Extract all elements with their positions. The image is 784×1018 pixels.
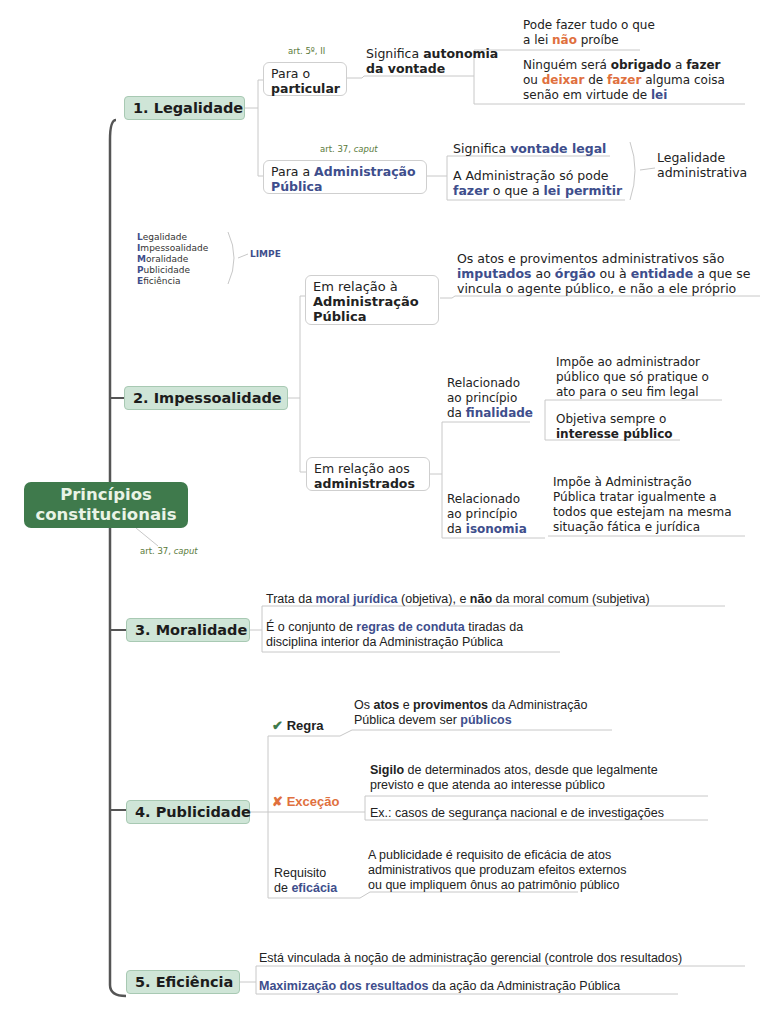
leaf-maximizacao[interactable]: Maximização dos resultados da ação da Ad… <box>259 979 620 994</box>
t: da <box>447 522 466 536</box>
node-em-relacao-a-administracao[interactable]: Em relação à Administração Pública <box>305 275 439 325</box>
t: Em relação aos <box>314 461 422 476</box>
leaf-pode-fazer-tudo[interactable]: Pode fazer tudo o que a lei não proíbe <box>523 18 655 48</box>
limpe-label[interactable]: LIMPE <box>250 249 281 259</box>
t: da <box>447 406 466 420</box>
t: A Administração só pode <box>453 168 609 183</box>
t: a lei <box>523 33 552 47</box>
t: o que a <box>489 183 544 198</box>
label: Para o <box>271 66 339 81</box>
t: senão em virtude de <box>523 88 651 102</box>
node-regra[interactable]: ✔ Regra <box>272 718 323 733</box>
summary-legalidade-administrativa[interactable]: Legalidade administrativa <box>657 150 747 180</box>
t: Administração <box>314 164 416 179</box>
node-requisito-eficacia[interactable]: Requisito de eficácia <box>274 866 337 896</box>
t: M <box>137 254 146 264</box>
t: Os atos e provimentos administrativos sã… <box>457 251 724 266</box>
t: Pode fazer tudo o que <box>523 18 655 32</box>
node-para-a-administracao[interactable]: Para a Administração Pública <box>263 160 427 194</box>
node-excecao[interactable]: ✘ Exceção <box>272 794 339 809</box>
t: Pública <box>271 179 419 194</box>
t: da moral comum (subjetiva) <box>492 592 650 606</box>
t: ou <box>523 73 542 87</box>
leaf-requisito-de-eficacia[interactable]: A publicidade é requisito de eficácia de… <box>368 848 626 893</box>
t: proíbe <box>577 33 619 47</box>
node-principio-finalidade[interactable]: Relacionado ao princípio da finalidade <box>447 376 533 421</box>
t: públicos <box>460 713 511 727</box>
leaf-vontade-legal[interactable]: Significa vontade legal <box>453 141 606 156</box>
leaf-atos-publicos[interactable]: Os atos e provimentos da Administração P… <box>354 698 587 728</box>
t: vontade legal <box>510 141 606 156</box>
t: art. 37, <box>320 144 354 154</box>
note-italic: caput <box>174 546 198 556</box>
t: Requisito <box>274 866 337 881</box>
t: Trata da <box>266 592 316 606</box>
leaf-exemplos[interactable]: Ex.: casos de segurança nacional e de in… <box>370 806 664 821</box>
topic-eficiencia[interactable]: 5. Eficiência <box>126 970 240 994</box>
leaf-interesse-publico[interactable]: Objetiva sempre o interesse público <box>556 412 673 442</box>
t: obrigado <box>611 58 671 72</box>
t: moral jurídica <box>316 592 398 606</box>
t: previsto e que atenda ao interesse públi… <box>370 778 605 792</box>
t: Relacionado <box>447 492 527 507</box>
note-art37: art. 37, caput <box>320 144 378 154</box>
leaf-atos-imputados[interactable]: Os atos e provimentos administrativos sã… <box>457 251 751 296</box>
t: administrativa <box>657 165 747 180</box>
t: ao <box>532 266 555 281</box>
t: não <box>552 33 577 47</box>
t: da Administração <box>488 698 587 712</box>
t: P <box>137 265 144 275</box>
t: ublicidade <box>144 265 190 275</box>
t: (objetiva), e <box>398 592 470 606</box>
leaf-moral-juridica[interactable]: Trata da moral jurídica (objetiva), e nã… <box>266 592 650 607</box>
t: Maximização dos resultados <box>259 979 429 993</box>
leaf-tratar-igualmente[interactable]: Impõe à Administração Pública tratar igu… <box>553 475 732 535</box>
t: Legalidade <box>657 150 747 165</box>
t: ou à <box>596 266 631 281</box>
t: ficiência <box>143 276 180 286</box>
t: Significa <box>453 141 510 156</box>
leaf-regras-de-conduta[interactable]: É o conjunto de regras de conduta tirada… <box>266 620 523 650</box>
leaf-sigilo[interactable]: Sigilo de determinados atos, desde que l… <box>370 763 658 793</box>
topic-moralidade[interactable]: 3. Moralidade <box>126 618 250 642</box>
leaf-ninguem-sera-obrigado[interactable]: Ninguém será obrigado a fazer ou deixar … <box>523 58 725 103</box>
t: eficácia <box>291 881 337 895</box>
leaf-so-pode-fazer[interactable]: A Administração só pode fazer o que a le… <box>453 168 622 198</box>
t: fazer <box>453 183 489 198</box>
t: entidade <box>631 266 693 281</box>
limpe-item: Impessoalidade <box>137 243 208 254</box>
t: vincula o agente público, e não a ele pr… <box>457 281 736 296</box>
t: administrados <box>314 476 422 491</box>
cross-icon: ✘ <box>272 794 283 809</box>
t: Impõe ao administrador <box>556 355 709 370</box>
t: alguma coisa <box>641 73 724 87</box>
leaf-administracao-gerencial[interactable]: Está vinculada à noção de administração … <box>259 951 682 966</box>
t: a <box>671 58 686 72</box>
leaf-impoe-ao-administrador[interactable]: Impõe ao administrador público que só pr… <box>556 355 709 400</box>
t: Impõe à Administração <box>553 475 732 490</box>
t: Objetiva sempre o <box>556 412 673 427</box>
check-icon: ✔ <box>272 718 283 733</box>
t: todos que estejam na mesma <box>553 505 732 520</box>
node-autonomia-da-vontade[interactable]: Significa autonomia da vontade <box>366 46 498 76</box>
t: de <box>274 881 291 895</box>
topic-impessoalidade[interactable]: 2. Impessoalidade <box>124 386 288 410</box>
central-topic[interactable]: Princípios constitucionais <box>24 482 188 528</box>
t: da vontade <box>366 61 445 76</box>
t: caput <box>354 144 378 154</box>
t: deixar <box>542 73 585 87</box>
t: lei <box>651 88 667 102</box>
node-para-o-particular[interactable]: Para o particular <box>263 62 347 96</box>
note-art5: art. 5º, II <box>288 46 325 56</box>
t: fazer <box>607 73 641 87</box>
limpe-item: Moralidade <box>137 254 208 265</box>
topic-legalidade[interactable]: 1. Legalidade <box>124 96 245 120</box>
node-principio-isonomia[interactable]: Relacionado ao princípio da isonomia <box>447 492 527 537</box>
t: disciplina interior da Administração Púb… <box>266 635 503 649</box>
node-em-relacao-aos-administrados[interactable]: Em relação aos administrados <box>306 457 430 491</box>
t: mpessoalidade <box>140 243 208 253</box>
topic-publicidade[interactable]: 4. Publicidade <box>126 800 250 824</box>
t: não <box>470 592 492 606</box>
t: provimentos <box>413 698 488 712</box>
t: egalidade <box>143 232 187 242</box>
